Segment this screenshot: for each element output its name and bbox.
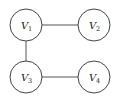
node-subscript: 1 bbox=[28, 25, 32, 33]
node-subscript: 2 bbox=[96, 25, 100, 33]
node-v4: V4 bbox=[78, 61, 110, 93]
node-subscript: 4 bbox=[96, 77, 100, 85]
graph-diagram: V1V2V3V4 bbox=[0, 0, 115, 109]
node-v2: V2 bbox=[78, 9, 110, 41]
node-v1: V1 bbox=[10, 9, 42, 41]
node-subscript: 3 bbox=[28, 77, 32, 85]
node-v3: V3 bbox=[10, 61, 42, 93]
